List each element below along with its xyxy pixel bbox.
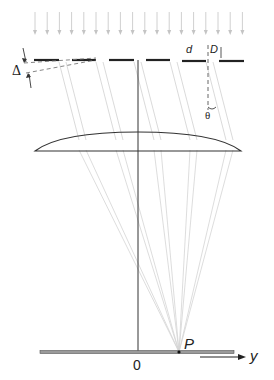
grating [34,60,244,61]
point-p-label: P [184,336,194,351]
d-label: d [186,44,192,55]
y-axis-arrow [200,354,246,360]
delta-label: Δ [12,64,21,78]
incident-light-arrows [33,12,244,35]
D-label: D [210,44,218,55]
origin-label: 0 [133,358,141,372]
screen [40,351,234,354]
theta-label: θ [205,110,210,121]
y-axis-label: y [250,348,258,363]
diffracted-rays-upper [59,62,233,140]
delta-construction [22,48,96,88]
diagram-canvas [0,0,274,380]
converging-rays [79,150,233,352]
point-p-dot [177,350,180,353]
